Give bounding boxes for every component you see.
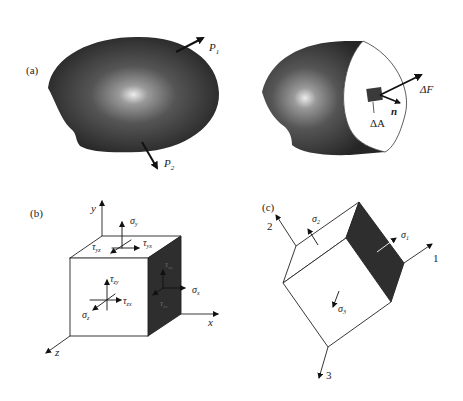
sigma-y-label: σy	[130, 215, 138, 227]
axis-3-label: 3	[326, 369, 332, 381]
force-delta-f-label: ΔF	[419, 83, 433, 95]
sigma-1-label: σ1	[401, 229, 409, 241]
panel-c: (c) 2 1 3 σ2 σ1 σ3	[262, 201, 439, 381]
axis-2-label: 2	[267, 220, 273, 232]
panel-c-label: (c)	[262, 201, 275, 214]
force-p1-label: P1	[208, 41, 219, 56]
axis-1-label: 1	[433, 252, 439, 264]
loaded-body-whole	[48, 37, 219, 152]
panel-b-label: (b)	[30, 207, 43, 220]
sigma-2-label: σ2	[312, 213, 320, 225]
axis-2	[276, 215, 296, 246]
panel-b: (b) y x z σy τyx τyz τzy τzx σz τxy σx	[30, 201, 218, 358]
panel-a-label: (a)	[26, 64, 39, 77]
normal-vector-label: n	[391, 105, 397, 117]
z-axis-label: z	[54, 346, 60, 358]
area-label: ΔA	[370, 117, 385, 129]
cube-front-face	[70, 258, 148, 336]
panel-a: (a) P1 P2 ΔA ΔF n	[26, 37, 433, 172]
force-p2-label: P2	[163, 157, 175, 172]
y-axis-label: y	[90, 202, 96, 214]
stress-diagram: (a) P1 P2 ΔA ΔF n (b) y x z	[0, 0, 463, 401]
x-axis-label: x	[207, 316, 213, 328]
sigma-x-label: σx	[192, 284, 200, 296]
axis-1	[404, 244, 432, 263]
